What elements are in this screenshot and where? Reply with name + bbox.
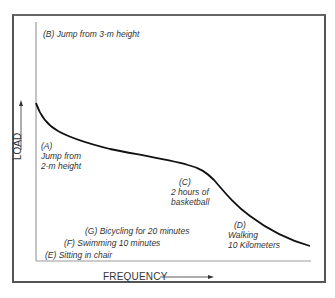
label-b: (B) Jump from 3-m height bbox=[43, 29, 139, 39]
label-c-line1: 2 hours of bbox=[171, 187, 209, 197]
x-arrow-head-icon bbox=[208, 275, 214, 279]
label-d-line1: Walking bbox=[228, 230, 258, 240]
label-d-id: (D) bbox=[234, 220, 246, 230]
label-c-line2: basketball bbox=[171, 197, 209, 207]
label-a-line1: Jump from bbox=[41, 151, 81, 161]
label-f: (F) Swimming 10 minutes bbox=[64, 238, 160, 248]
label-c-id: (C) bbox=[179, 177, 191, 187]
label-d-line2: 10 Kilometers bbox=[228, 240, 280, 250]
label-g: (G) Bicycling for 20 minutes bbox=[85, 226, 189, 236]
y-axis-title: LOAD bbox=[12, 133, 23, 160]
load-curve bbox=[36, 103, 310, 246]
label-a-line2: 2-m height bbox=[41, 161, 81, 171]
y-arrow-head-icon bbox=[19, 100, 23, 106]
x-axis-title: FREQUENCY bbox=[103, 271, 168, 282]
label-e: (E) Sitting in chair bbox=[45, 250, 112, 260]
label-a-id: (A) bbox=[41, 141, 52, 151]
